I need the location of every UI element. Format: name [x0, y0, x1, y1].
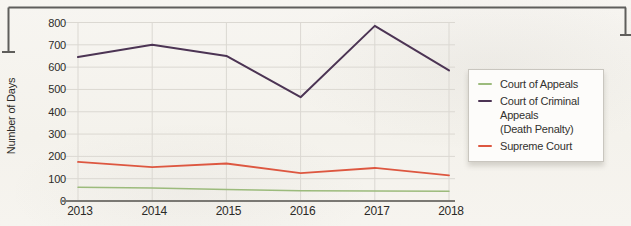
- series-line-supreme-court: [78, 162, 449, 175]
- x-tick-label: 2015: [216, 204, 242, 218]
- y-tick-label: 700: [48, 39, 66, 51]
- legend-label: Supreme Court: [500, 139, 572, 153]
- y-tick-label: 600: [48, 61, 66, 73]
- x-tick-label: 2018: [438, 204, 464, 218]
- legend-label: Court of Criminal Appeals(Death Penalty): [500, 94, 594, 136]
- legend-item-court-of-appeals: Court of Appeals: [478, 77, 594, 91]
- y-tick-label: 200: [48, 150, 66, 162]
- chart-legend: Court of AppealsCourt of Criminal Appeal…: [468, 69, 604, 162]
- y-tick-label: 100: [48, 173, 66, 185]
- x-tick-label: 2016: [290, 204, 316, 218]
- y-tick-label: 500: [48, 83, 66, 95]
- legend-item-court-of-criminal-appeals: Court of Criminal Appeals(Death Penalty): [478, 94, 594, 136]
- x-tick-label: 2013: [67, 204, 93, 218]
- legend-dash-icon: [478, 83, 492, 85]
- legend-dash-icon: [478, 145, 492, 147]
- y-tick-label: 800: [48, 17, 66, 29]
- y-tick-label: 300: [48, 128, 66, 140]
- series-line-court-of-criminal-appeals-death-penalty: [78, 26, 449, 97]
- legend-dash-icon: [478, 100, 492, 102]
- scanned-figure: 0100200300400500600700800201320142015201…: [0, 0, 631, 226]
- legend-label: Court of Appeals: [500, 77, 578, 91]
- series-line-court-of-appeals: [78, 187, 449, 191]
- x-tick-label: 2014: [141, 204, 167, 218]
- x-tick-label: 2017: [364, 204, 390, 218]
- legend-item-supreme-court: Supreme Court: [478, 139, 594, 153]
- y-tick-label: 400: [48, 106, 66, 118]
- y-axis-title: Number of Days: [5, 71, 17, 161]
